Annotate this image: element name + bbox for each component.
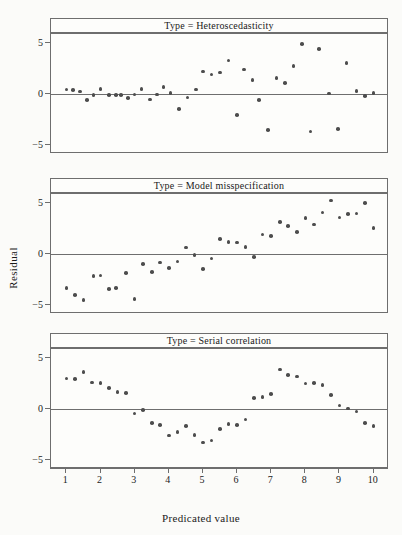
data-point: [73, 377, 77, 381]
data-point: [244, 418, 248, 422]
data-point: [169, 91, 173, 95]
data-point: [286, 373, 290, 377]
y-axis-3: 50−5: [26, 348, 50, 468]
data-point: [355, 89, 359, 93]
data-point: [124, 391, 128, 395]
data-point: [133, 93, 137, 97]
data-point: [286, 224, 290, 228]
plot-area-1: [50, 33, 388, 153]
data-point: [155, 93, 159, 97]
data-point: [275, 76, 279, 80]
data-point: [210, 73, 214, 77]
x-axis-label-text: Predicated value: [162, 512, 240, 524]
data-point: [261, 395, 265, 399]
data-point: [278, 368, 282, 372]
x-axis: 12345678910: [50, 468, 388, 490]
data-point: [150, 270, 154, 274]
x-axis-tick: [168, 468, 169, 473]
data-point: [210, 257, 214, 261]
panel-1: Type = Heteroscedasticity: [50, 18, 388, 153]
data-point: [372, 424, 376, 428]
y-axis-label-text: Residual: [7, 247, 19, 289]
y-axis-tick: [45, 93, 50, 94]
panel-3: Type = Serial correlation: [50, 333, 388, 468]
y-axis-tick-label: 0: [38, 88, 43, 99]
data-point: [266, 128, 270, 132]
data-point: [210, 439, 214, 443]
data-point: [158, 423, 162, 427]
y-axis-tick: [45, 144, 50, 145]
data-point: [73, 293, 77, 297]
data-point: [244, 245, 248, 249]
data-point: [372, 226, 376, 230]
residual-diagnostic-figure: Residual Type = Heteroscedasticity50−5Ty…: [0, 0, 402, 535]
data-point: [363, 201, 367, 205]
data-point: [261, 233, 265, 237]
data-point: [119, 93, 123, 97]
y-axis-tick: [45, 459, 50, 460]
data-point: [133, 412, 137, 416]
data-point: [99, 274, 103, 278]
data-point: [99, 87, 103, 91]
y-axis-2: 50−5: [26, 193, 50, 313]
data-point: [184, 424, 188, 428]
x-axis-tick-label: 2: [97, 474, 102, 485]
x-axis-tick-label: 6: [234, 474, 239, 485]
data-point: [309, 130, 313, 134]
x-axis-tick-label: 7: [268, 474, 273, 485]
data-point: [355, 212, 359, 216]
data-point: [338, 404, 342, 408]
x-axis-tick-label: 10: [368, 474, 378, 485]
data-point: [321, 211, 325, 215]
x-axis-tick: [270, 468, 271, 473]
x-axis-tick-label: 5: [199, 474, 204, 485]
x-axis-tick-label: 1: [63, 474, 68, 485]
zero-reference-line: [51, 254, 387, 255]
data-point: [162, 85, 166, 89]
data-point: [201, 441, 205, 445]
data-point: [177, 107, 181, 111]
zero-reference-line: [51, 94, 387, 95]
data-point: [235, 113, 239, 117]
x-axis-tick: [202, 468, 203, 473]
data-point: [283, 81, 287, 85]
data-point: [218, 427, 222, 431]
x-axis-tick-label: 8: [302, 474, 307, 485]
data-point: [304, 382, 308, 386]
data-point: [65, 377, 69, 381]
data-point: [363, 94, 367, 98]
y-axis-tick: [45, 253, 50, 254]
x-axis-label: Predicated value: [0, 512, 402, 524]
y-axis-tick: [45, 304, 50, 305]
data-point: [295, 230, 299, 234]
data-point: [269, 392, 273, 396]
data-point: [201, 70, 205, 74]
data-point: [92, 274, 96, 278]
x-axis-tick: [304, 468, 305, 473]
data-point: [176, 430, 180, 434]
data-point: [269, 234, 273, 238]
data-point: [295, 375, 299, 379]
data-point: [235, 241, 239, 245]
data-point: [257, 98, 261, 102]
data-point: [346, 212, 350, 216]
x-axis-tick-label: 4: [165, 474, 170, 485]
data-point: [251, 78, 255, 82]
y-axis-tick-label: 5: [38, 197, 43, 208]
data-point: [107, 386, 111, 390]
data-point: [363, 421, 367, 425]
y-axis-tick-label: 0: [38, 248, 43, 259]
data-point: [300, 42, 304, 46]
y-axis-tick-label: −5: [32, 298, 43, 309]
data-point: [92, 93, 96, 97]
data-point: [345, 61, 349, 65]
y-axis-tick: [45, 202, 50, 203]
data-point: [312, 381, 316, 385]
x-axis-tick: [100, 468, 101, 473]
data-point: [329, 393, 333, 397]
data-point: [193, 433, 197, 437]
data-point: [124, 271, 128, 275]
data-point: [85, 98, 89, 102]
data-point: [338, 216, 342, 220]
data-point: [321, 383, 325, 387]
